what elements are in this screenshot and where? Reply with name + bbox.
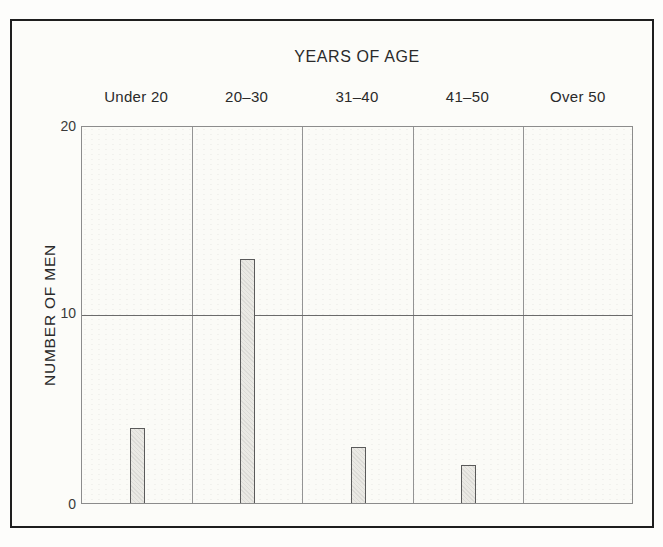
y-tick-label-10: 10 [38,304,76,322]
bar-41-50 [461,465,476,503]
bar-under-20 [130,428,145,503]
bar-20-30 [240,259,255,503]
y-tick-label-20: 20 [38,117,76,135]
category-label-41-50: 41–50 [412,88,522,105]
category-label-under-20: Under 20 [81,88,191,105]
category-labels-row: Under 20 20–30 31–40 41–50 Over 50 [81,88,633,105]
bar-31-40 [351,447,366,503]
y-tick-label-0: 0 [38,495,76,513]
plot-area [81,126,633,504]
scanned-page: YEARS OF AGE Under 20 20–30 31–40 41–50 … [0,0,663,547]
gridline-value-10 [82,315,632,316]
chart-title: YEARS OF AGE [81,48,633,66]
category-label-20-30: 20–30 [191,88,301,105]
category-label-over-50: Over 50 [523,88,633,105]
category-label-31-40: 31–40 [302,88,412,105]
